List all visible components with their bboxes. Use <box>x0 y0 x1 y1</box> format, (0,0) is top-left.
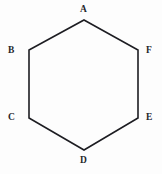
vertex-label-c: C <box>8 113 15 123</box>
vertex-label-a: A <box>80 5 87 15</box>
vertex-label-e: E <box>146 113 152 123</box>
figure-canvas: A F E D C B <box>0 0 162 174</box>
hexagon-outline <box>29 20 138 150</box>
vertex-label-d: D <box>80 156 87 166</box>
vertex-label-b: B <box>8 46 14 56</box>
hexagon-figure <box>0 0 162 174</box>
vertex-label-f: F <box>146 46 152 56</box>
